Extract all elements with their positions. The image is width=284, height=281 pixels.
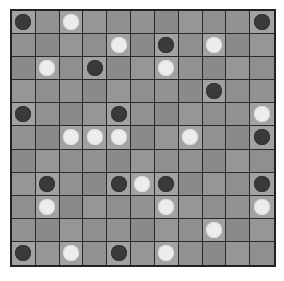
board-cell-r1-c9[interactable] <box>226 34 250 57</box>
board-cell-r9-c2[interactable] <box>60 219 84 242</box>
black-piece[interactable] <box>254 176 270 192</box>
board-cell-r2-c8[interactable] <box>203 57 227 80</box>
board-cell-r10-c9[interactable] <box>226 242 250 265</box>
board-cell-r6-c10[interactable] <box>250 150 274 173</box>
white-piece[interactable] <box>111 129 127 145</box>
board-cell-r8-c8[interactable] <box>203 196 227 219</box>
board-cell-r1-c6[interactable] <box>155 34 179 57</box>
white-piece[interactable] <box>206 222 222 238</box>
board-cell-r7-c8[interactable] <box>203 173 227 196</box>
board-cell-r9-c6[interactable] <box>155 219 179 242</box>
board-cell-r2-c5[interactable] <box>131 57 155 80</box>
board-cell-r10-c0[interactable] <box>12 242 36 265</box>
board-cell-r10-c5[interactable] <box>131 242 155 265</box>
board-cell-r9-c5[interactable] <box>131 219 155 242</box>
board-cell-r1-c2[interactable] <box>60 34 84 57</box>
board-cell-r2-c9[interactable] <box>226 57 250 80</box>
board-cell-r10-c4[interactable] <box>107 242 131 265</box>
board-cell-r2-c0[interactable] <box>12 57 36 80</box>
board-cell-r7-c5[interactable] <box>131 173 155 196</box>
black-piece[interactable] <box>15 245 31 261</box>
board-cell-r1-c10[interactable] <box>250 34 274 57</box>
white-piece[interactable] <box>158 245 174 261</box>
board-cell-r7-c6[interactable] <box>155 173 179 196</box>
board-cell-r3-c7[interactable] <box>179 80 203 103</box>
board-cell-r7-c7[interactable] <box>179 173 203 196</box>
white-piece[interactable] <box>158 60 174 76</box>
board-cell-r5-c3[interactable] <box>83 126 107 149</box>
board-cell-r10-c7[interactable] <box>179 242 203 265</box>
board-cell-r7-c3[interactable] <box>83 173 107 196</box>
board-cell-r10-c10[interactable] <box>250 242 274 265</box>
black-piece[interactable] <box>15 106 31 122</box>
white-piece[interactable] <box>111 37 127 53</box>
board-cell-r0-c4[interactable] <box>107 11 131 34</box>
board-cell-r6-c6[interactable] <box>155 150 179 173</box>
board-cell-r1-c3[interactable] <box>83 34 107 57</box>
board-cell-r3-c0[interactable] <box>12 80 36 103</box>
board-cell-r4-c2[interactable] <box>60 103 84 126</box>
board-cell-r1-c4[interactable] <box>107 34 131 57</box>
white-piece[interactable] <box>63 129 79 145</box>
board-cell-r6-c7[interactable] <box>179 150 203 173</box>
board-cell-r9-c7[interactable] <box>179 219 203 242</box>
white-piece[interactable] <box>206 37 222 53</box>
board-cell-r7-c4[interactable] <box>107 173 131 196</box>
board-cell-r0-c2[interactable] <box>60 11 84 34</box>
board-cell-r10-c1[interactable] <box>36 242 60 265</box>
board-cell-r8-c1[interactable] <box>36 196 60 219</box>
white-piece[interactable] <box>158 199 174 215</box>
board-cell-r0-c8[interactable] <box>203 11 227 34</box>
board-cell-r1-c8[interactable] <box>203 34 227 57</box>
board-cell-r3-c6[interactable] <box>155 80 179 103</box>
board-cell-r5-c0[interactable] <box>12 126 36 149</box>
board-cell-r10-c2[interactable] <box>60 242 84 265</box>
board-cell-r1-c5[interactable] <box>131 34 155 57</box>
board-cell-r2-c7[interactable] <box>179 57 203 80</box>
board-cell-r9-c3[interactable] <box>83 219 107 242</box>
board-cell-r7-c0[interactable] <box>12 173 36 196</box>
board-cell-r4-c10[interactable] <box>250 103 274 126</box>
board-cell-r5-c4[interactable] <box>107 126 131 149</box>
board-cell-r8-c10[interactable] <box>250 196 274 219</box>
board-cell-r4-c7[interactable] <box>179 103 203 126</box>
board-cell-r4-c9[interactable] <box>226 103 250 126</box>
board-cell-r1-c0[interactable] <box>12 34 36 57</box>
board-cell-r3-c8[interactable] <box>203 80 227 103</box>
black-piece[interactable] <box>254 129 270 145</box>
board-cell-r6-c0[interactable] <box>12 150 36 173</box>
board-cell-r1-c1[interactable] <box>36 34 60 57</box>
board-cell-r3-c2[interactable] <box>60 80 84 103</box>
board-cell-r8-c6[interactable] <box>155 196 179 219</box>
board-cell-r8-c5[interactable] <box>131 196 155 219</box>
board-cell-r3-c10[interactable] <box>250 80 274 103</box>
black-piece[interactable] <box>111 176 127 192</box>
board-cell-r5-c10[interactable] <box>250 126 274 149</box>
board-cell-r5-c9[interactable] <box>226 126 250 149</box>
board-cell-r5-c1[interactable] <box>36 126 60 149</box>
board-cell-r9-c10[interactable] <box>250 219 274 242</box>
black-piece[interactable] <box>15 14 31 30</box>
board-cell-r6-c3[interactable] <box>83 150 107 173</box>
white-piece[interactable] <box>63 245 79 261</box>
board-cell-r8-c7[interactable] <box>179 196 203 219</box>
white-piece[interactable] <box>254 106 270 122</box>
board-cell-r2-c4[interactable] <box>107 57 131 80</box>
board-cell-r4-c1[interactable] <box>36 103 60 126</box>
board-cell-r8-c9[interactable] <box>226 196 250 219</box>
black-piece[interactable] <box>111 245 127 261</box>
board-cell-r7-c1[interactable] <box>36 173 60 196</box>
board-cell-r10-c8[interactable] <box>203 242 227 265</box>
board-cell-r6-c4[interactable] <box>107 150 131 173</box>
board-cell-r3-c4[interactable] <box>107 80 131 103</box>
black-piece[interactable] <box>206 83 222 99</box>
board-cell-r7-c2[interactable] <box>60 173 84 196</box>
black-piece[interactable] <box>111 106 127 122</box>
board-cell-r8-c0[interactable] <box>12 196 36 219</box>
white-piece[interactable] <box>87 129 103 145</box>
board-cell-r6-c9[interactable] <box>226 150 250 173</box>
board-cell-r5-c6[interactable] <box>155 126 179 149</box>
board-cell-r5-c7[interactable] <box>179 126 203 149</box>
board-cell-r2-c3[interactable] <box>83 57 107 80</box>
board-cell-r0-c6[interactable] <box>155 11 179 34</box>
